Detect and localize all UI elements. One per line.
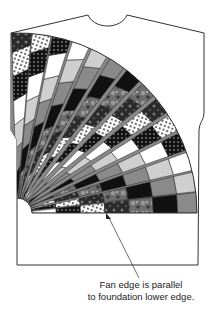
fan-strip	[153, 195, 178, 213]
figure-caption: Fan edge is parallel to foundation lower…	[70, 279, 212, 303]
caption-line-2: to foundation lower edge.	[70, 291, 212, 303]
caption-line-1: Fan edge is parallel	[70, 279, 212, 291]
garment-diagram	[0, 0, 212, 312]
fan-strip	[128, 197, 153, 213]
